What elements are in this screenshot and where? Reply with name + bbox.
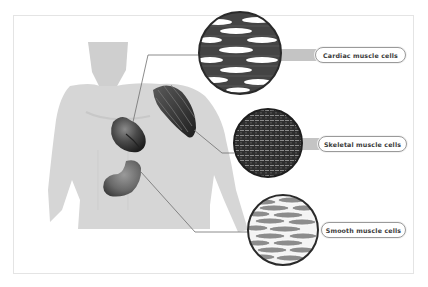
skeletal-label: Skeletal muscle cells: [318, 136, 407, 152]
cardiac-label: Cardiac muscle cells: [315, 47, 406, 63]
smooth-label: Smooth muscle cells: [321, 222, 406, 238]
cardiac-cells-magnifier: [195, 10, 285, 100]
smooth-cells-magnifier: [244, 195, 318, 265]
skeletal-cells-magnifier: [234, 109, 302, 177]
